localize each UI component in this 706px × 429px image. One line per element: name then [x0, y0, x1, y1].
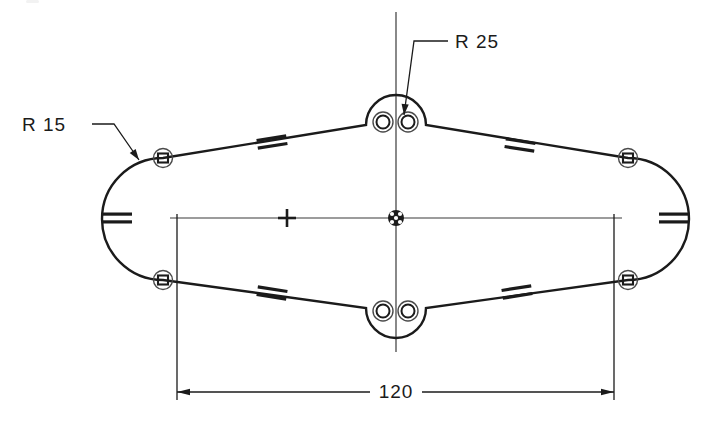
cad-drawing-canvas: 120 R 15 R 25	[0, 0, 706, 429]
radius-label-top[interactable]: R 25	[455, 31, 499, 52]
constraint-merge-merge-top-vertex-b[interactable]	[398, 112, 418, 132]
centerlines	[170, 12, 622, 352]
origin-point[interactable]	[388, 210, 404, 226]
sketch-point-left[interactable]	[278, 209, 296, 227]
constraint-parallel-parallel-upper-right[interactable]	[504, 137, 535, 153]
leader-line-r25	[404, 41, 448, 115]
constraint-parallel-parallel-lower-right[interactable]	[501, 284, 532, 300]
constraint-merge-merge-top-vertex-a[interactable]	[373, 112, 393, 132]
dimension-arrow-left	[177, 389, 190, 395]
constraint-tangent-tangent-right-extreme[interactable]	[659, 213, 689, 224]
constraint-merge-merge-bottom-vertex-b[interactable]	[398, 301, 418, 321]
dimension-value-length[interactable]: 120	[379, 381, 414, 402]
radius-label-left[interactable]: R 15	[22, 114, 66, 135]
constraint-merge-merge-bottom-vertex-a[interactable]	[373, 301, 393, 321]
dimension-arrow-right	[601, 389, 614, 395]
constraint-tangent-tangent-left-extreme[interactable]	[102, 213, 132, 224]
leader-arrowhead-r15	[130, 149, 142, 162]
annotation-radius-left[interactable]: R 15	[22, 114, 142, 162]
